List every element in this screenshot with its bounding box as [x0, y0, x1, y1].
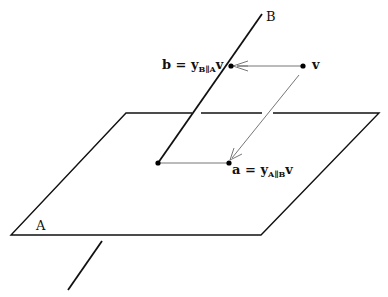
b-sub: B∥A	[199, 64, 216, 74]
point-b	[228, 63, 233, 68]
label-a-equation: a = yA∥Bv	[232, 163, 293, 178]
label-b-equation: b = yB∥Av	[162, 58, 223, 73]
b-y: y	[191, 57, 199, 72]
a-v: v	[285, 162, 293, 177]
plane-A	[11, 113, 379, 235]
label-v: v	[312, 58, 320, 71]
b-v: v	[216, 57, 224, 72]
a-y: y	[260, 162, 268, 177]
b-lhs: b =	[162, 57, 191, 72]
a-sub: A∥B	[268, 169, 285, 179]
point-v	[300, 63, 305, 68]
projection-diagram: B A v b = yB∥Av a = yA∥Bv	[0, 0, 388, 297]
a-lhs: a =	[232, 162, 260, 177]
label-plane-A: A	[36, 219, 45, 232]
diagram-svg	[0, 0, 388, 297]
point-a	[226, 160, 231, 165]
label-line-B: B	[266, 10, 276, 23]
points	[155, 63, 305, 165]
projection-arrows	[158, 61, 303, 163]
point-origin	[155, 160, 160, 165]
